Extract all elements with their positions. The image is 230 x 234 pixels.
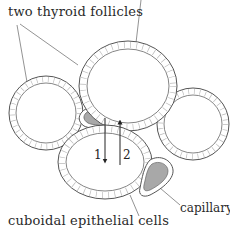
arrow-1-label: 1	[94, 148, 102, 162]
label-cuboidal-epithelial-cells: cuboidal epithelial cells	[8, 213, 169, 228]
thyroid-follicle-diagram: two thyroid follicles capillary cuboidal…	[0, 0, 230, 234]
label-capillary: capillary	[180, 201, 230, 215]
arrow-2-label: 2	[123, 148, 131, 162]
label-two-thyroid-follicles: two thyroid follicles	[8, 4, 143, 19]
diagram-drawing	[0, 0, 230, 234]
top-follicle	[79, 41, 177, 131]
